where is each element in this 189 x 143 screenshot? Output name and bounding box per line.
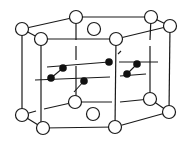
atom-open bbox=[35, 33, 48, 46]
atom-open bbox=[16, 23, 29, 36]
middle-layer-bonds bbox=[35, 51, 158, 92]
atom-open bbox=[87, 108, 100, 121]
atom-open bbox=[163, 106, 176, 119]
atom-filled bbox=[105, 58, 113, 66]
atom-open bbox=[109, 121, 122, 134]
open-atoms bbox=[16, 11, 177, 135]
atom-open bbox=[110, 33, 123, 46]
atom-filled bbox=[123, 70, 131, 78]
atom-filled bbox=[59, 64, 67, 72]
atom-open bbox=[144, 93, 157, 106]
atom-filled bbox=[133, 60, 141, 68]
atom-open bbox=[164, 20, 177, 33]
atom-filled bbox=[47, 74, 55, 82]
atom-open bbox=[88, 23, 101, 36]
atom-open bbox=[70, 11, 83, 24]
atom-open bbox=[145, 11, 158, 24]
atom-open bbox=[16, 109, 29, 122]
crystal-structure-diagram bbox=[0, 0, 189, 143]
atom-open bbox=[69, 96, 82, 109]
atom-open bbox=[37, 122, 50, 135]
atom-filled bbox=[80, 77, 88, 85]
